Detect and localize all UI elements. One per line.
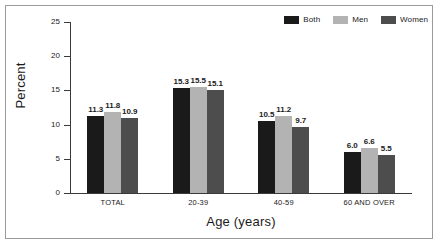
bar-both[interactable] [173, 88, 190, 193]
bar-slot: 15.5 [190, 22, 207, 193]
bar-slot: 5.5 [378, 22, 395, 193]
bar-men[interactable] [275, 116, 292, 193]
bar-slot: 10.5 [258, 22, 275, 193]
bar-value-label: 5.5 [381, 145, 392, 153]
bar-value-label: 11.3 [88, 106, 103, 114]
category-label-total: TOTAL [70, 198, 156, 207]
bar-value-label: 11.2 [276, 106, 291, 114]
category-label-40-59: 40-59 [241, 198, 327, 207]
bar-men[interactable] [190, 87, 207, 193]
bar-value-label: 6.6 [364, 138, 375, 146]
y-tick-label-25: 25 [20, 18, 60, 26]
bar-value-label: 6.0 [347, 142, 358, 150]
y-tick-label-0: 0 [20, 189, 60, 197]
bar-both[interactable] [87, 116, 104, 193]
y-tick-15 [64, 90, 70, 91]
bar-group-20-39: 15.315.515.1 [173, 22, 224, 193]
bar-women[interactable] [378, 155, 395, 193]
bar-slot: 6.0 [344, 22, 361, 193]
bar-value-label: 11.8 [105, 102, 120, 110]
bar-value-label: 15.1 [207, 80, 223, 88]
y-tick-0 [64, 193, 70, 194]
y-axis-title: Percent [13, 31, 28, 141]
bar-slot: 11.2 [275, 22, 292, 193]
y-tick-label-5: 5 [20, 155, 60, 163]
bar-both[interactable] [344, 152, 361, 193]
y-tick-20 [64, 56, 70, 57]
bar-slot: 9.7 [292, 22, 309, 193]
bar-group-60-and-over: 6.06.65.5 [344, 22, 395, 193]
bar-slot: 15.3 [173, 22, 190, 193]
bar-men[interactable] [104, 112, 121, 193]
category-label-20-39: 20-39 [156, 198, 242, 207]
bar-value-label: 9.7 [295, 117, 306, 125]
bar-women[interactable] [292, 127, 309, 193]
bar-both[interactable] [258, 121, 275, 193]
x-axis-line [70, 193, 412, 194]
bar-group-total: 11.311.810.9 [87, 22, 138, 193]
chart-figure: Both Men Women 0510152025 Percent 11.311… [0, 0, 440, 246]
x-axis-title: Age (years) [70, 214, 412, 229]
bar-slot: 6.6 [361, 22, 378, 193]
bar-slot: 15.1 [207, 22, 224, 193]
bar-value-label: 15.5 [190, 77, 206, 85]
plot-area: 0510152025 Percent 11.311.810.915.315.51… [0, 0, 440, 246]
y-tick-10 [64, 125, 70, 126]
bar-men[interactable] [361, 148, 378, 193]
bar-value-label: 10.9 [122, 108, 138, 116]
y-tick-5 [64, 159, 70, 160]
y-axis-line [70, 22, 71, 194]
bar-value-label: 15.3 [173, 78, 189, 86]
bar-slot: 11.3 [87, 22, 104, 193]
y-tick-25 [64, 22, 70, 23]
bar-slot: 11.8 [104, 22, 121, 193]
bar-women[interactable] [121, 118, 138, 193]
category-label-60-and-over: 60 AND OVER [327, 198, 413, 207]
bar-women[interactable] [207, 90, 224, 193]
bar-slot: 10.9 [121, 22, 138, 193]
bar-value-label: 10.5 [259, 111, 275, 119]
bar-group-40-59: 10.511.29.7 [258, 22, 309, 193]
